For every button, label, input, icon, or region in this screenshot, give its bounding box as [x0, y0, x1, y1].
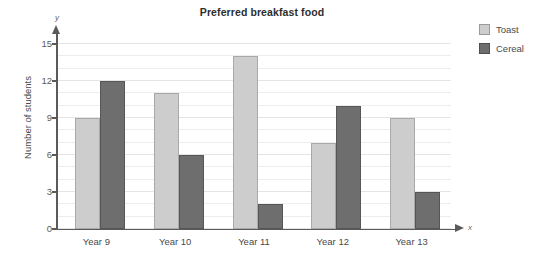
y-axis-tick-label: 12 [16, 76, 52, 86]
legend-swatch-icon-cereal [479, 43, 490, 54]
legend-label: Toast [496, 24, 519, 35]
x-axis-letter: x [468, 223, 472, 232]
legend-item-toast[interactable]: Toast [479, 21, 535, 38]
chart-title: Preferred breakfast food [57, 6, 467, 18]
x-axis-arrow-icon [455, 224, 464, 232]
y-axis-letter: y [55, 13, 59, 22]
chart-legend: ToastCereal [479, 21, 535, 59]
y-axis-tick [52, 43, 57, 44]
y-axis-line [56, 32, 58, 230]
x-axis-line [57, 229, 455, 231]
x-axis-label-year-11: Year 11 [215, 236, 294, 247]
legend-item-cereal[interactable]: Cereal [479, 40, 535, 57]
y-axis-arrow-icon [52, 25, 60, 34]
bar-toast-year-9 [75, 118, 100, 229]
legend-swatch-icon-toast [479, 24, 490, 35]
y-axis-tick [52, 154, 57, 155]
y-axis-tick-label: 3 [16, 187, 52, 197]
legend-label: Cereal [496, 43, 524, 54]
y-axis-tick-label: 9 [16, 113, 52, 123]
x-axis-label-year-9: Year 9 [57, 236, 136, 247]
bar-cereal-year-11 [258, 204, 283, 229]
y-axis-tick [52, 228, 57, 229]
bar-cereal-year-12 [336, 106, 361, 229]
bar-toast-year-11 [233, 56, 258, 229]
bar-toast-year-10 [154, 93, 179, 229]
y-axis-tick-labels: 03691215 [8, 0, 52, 260]
y-axis-tick [52, 80, 57, 81]
x-axis-label-year-13: Year 13 [372, 236, 451, 247]
bar-cereal-year-9 [100, 81, 125, 229]
y-axis-tick-label: 6 [16, 150, 52, 160]
bar-cereal-year-13 [415, 192, 440, 229]
bar-chart: Preferred breakfast food Number of stude… [0, 0, 535, 260]
y-axis-tick-label: 0 [16, 224, 52, 234]
y-axis-tick [52, 117, 57, 118]
y-axis-tick-label: 15 [16, 39, 52, 49]
bar-toast-year-12 [311, 143, 336, 229]
bar-toast-year-13 [390, 118, 415, 229]
bar-cereal-year-10 [179, 155, 204, 229]
y-axis-tick [52, 191, 57, 192]
plot-area [57, 44, 451, 229]
x-axis-label-year-12: Year 12 [293, 236, 372, 247]
gridline-major [57, 43, 451, 44]
x-axis-label-year-10: Year 10 [136, 236, 215, 247]
